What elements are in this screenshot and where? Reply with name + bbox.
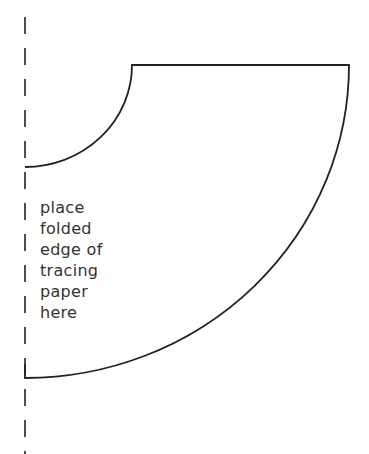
label-line: tracing [40, 260, 103, 281]
label-line: edge of [40, 239, 103, 260]
label-line: folded [40, 218, 103, 239]
label-line: place [40, 197, 103, 218]
label-line: here [40, 302, 103, 323]
fold-instruction-label: place folded edge of tracing paper here [40, 197, 103, 323]
label-line: paper [40, 281, 103, 302]
